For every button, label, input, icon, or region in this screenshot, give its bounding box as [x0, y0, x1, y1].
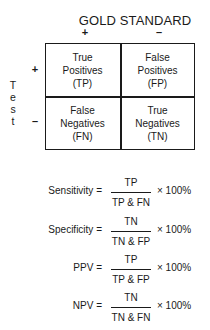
test-letter: e [8, 91, 18, 103]
fraction-bar [111, 269, 151, 270]
multiplier: × 100% [157, 300, 191, 311]
fraction: TP TP & FP [111, 253, 151, 287]
test-vertical-label: T e s t [8, 79, 18, 127]
test-letter: t [8, 115, 18, 127]
test-letter: T [8, 79, 18, 91]
fraction-bar [111, 192, 151, 193]
test-letter: s [8, 103, 18, 115]
formula-label: NPV = [73, 300, 102, 311]
formula-ppv: PPV = TP TP & FP × 100% [0, 253, 210, 287]
cell-false-negatives: False Negatives (FN) [45, 97, 120, 149]
test-positive-sign: + [29, 63, 41, 75]
fraction-bar [111, 307, 151, 308]
fraction: TN TN & FP [111, 215, 151, 249]
fraction-bar [111, 231, 151, 232]
formula-label: PPV = [73, 262, 102, 273]
multiplier: × 100% [157, 185, 191, 196]
formula-sensitivity: Sensitivity = TP TP & FN × 100% [0, 176, 210, 210]
gold-standard-negative-sign: – [153, 26, 165, 38]
test-negative-sign: – [29, 115, 41, 127]
fraction: TP TP & FN [111, 176, 151, 210]
formula-specificity: Specificity = TN TN & FP × 100% [0, 215, 210, 249]
formula-label: Specificity = [48, 224, 102, 235]
denominator: TN & FP [111, 235, 151, 249]
cell-true-positives: True Positives (TP) [45, 44, 120, 96]
fraction: TN TN & FN [111, 291, 151, 325]
formula-npv: NPV = TN TN & FN × 100% [0, 291, 210, 325]
numerator: TP [111, 253, 151, 267]
denominator: TP & FP [111, 273, 151, 287]
denominator: TN & FN [111, 311, 151, 325]
gold-standard-positive-sign: + [79, 26, 91, 38]
cell-false-positives: False Positives (FP) [120, 44, 195, 96]
numerator: TN [111, 215, 151, 229]
numerator: TN [111, 291, 151, 305]
numerator: TP [111, 176, 151, 190]
multiplier: × 100% [157, 224, 191, 235]
cell-true-negatives: True Negatives (TN) [120, 97, 195, 149]
formula-label: Sensitivity = [48, 185, 102, 196]
denominator: TP & FN [111, 196, 151, 210]
multiplier: × 100% [157, 262, 191, 273]
